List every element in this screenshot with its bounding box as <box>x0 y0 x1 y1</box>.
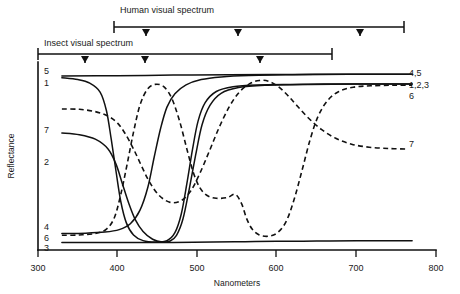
left-label-4: 4 <box>44 222 49 232</box>
human-visual-spectrum-label: Human visual spectrum <box>120 5 214 15</box>
x-tick-label-300: 300 <box>30 263 45 273</box>
left-label-5: 5 <box>44 66 49 76</box>
right-curve-labels: 4,5 1,2,3 6 7 <box>409 68 429 149</box>
curve-3 <box>62 241 412 243</box>
x-tick-label-800: 800 <box>428 263 443 273</box>
insect-visual-spectrum-label: Insect visual spectrum <box>44 38 133 48</box>
reflectance-curves <box>62 74 412 242</box>
x-tick-label-700: 700 <box>348 263 363 273</box>
human-visual-spectrum-annotation: Human visual spectrum <box>114 5 404 36</box>
x-tick-label-500: 500 <box>189 263 204 273</box>
x-tick-label-400: 400 <box>109 263 124 273</box>
insect-spectrum-markers <box>81 56 264 63</box>
curve-7 <box>62 80 406 202</box>
left-label-3: 3 <box>44 243 49 253</box>
curve-4 <box>62 74 412 233</box>
x-axis-tick-labels: 300 400 500 600 700 800 <box>30 263 443 273</box>
left-label-7: 7 <box>44 125 49 135</box>
x-axis-title: Nanometers <box>214 278 260 288</box>
right-label-4-5: 4,5 <box>409 68 422 78</box>
x-tick-label-600: 600 <box>268 263 283 273</box>
chart-axes: 300 400 500 600 700 800 Nanometers Refle… <box>6 62 444 288</box>
left-label-6: 6 <box>44 233 49 243</box>
left-curve-labels: 5 1 7 2 4 6 3 <box>44 66 49 253</box>
left-label-2: 2 <box>44 157 49 167</box>
x-axis-ticks <box>38 250 436 257</box>
figure-screenshot: Human visual spectrum Insect visual spec… <box>0 0 460 294</box>
right-label-6: 6 <box>409 91 414 101</box>
right-label-7: 7 <box>409 139 414 149</box>
left-label-1: 1 <box>44 78 49 88</box>
insect-visual-spectrum-annotation: Insect visual spectrum <box>38 38 332 63</box>
right-label-1-2-3: 1,2,3 <box>409 80 429 90</box>
reflectance-spectra-figure: Human visual spectrum Insect visual spec… <box>0 0 460 294</box>
y-axis-title: Reflectance <box>6 133 16 178</box>
human-spectrum-markers <box>142 29 364 36</box>
